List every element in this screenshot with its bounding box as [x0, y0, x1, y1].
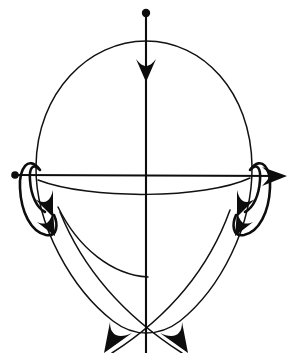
- figure-root: [0, 0, 288, 353]
- equator-arc: [38, 178, 250, 194]
- bottom-axes-crossing-point: [145, 329, 147, 331]
- horizontal-axis-line: [16, 175, 282, 176]
- jaw-arc-right: [112, 210, 230, 353]
- mouth-arc: [58, 207, 148, 277]
- head-rotation-axes-diagram: [0, 0, 288, 353]
- jaw-arc-left: [60, 212, 182, 353]
- top-pivot-dot: [142, 9, 150, 17]
- left-pivot-dot: [11, 171, 19, 179]
